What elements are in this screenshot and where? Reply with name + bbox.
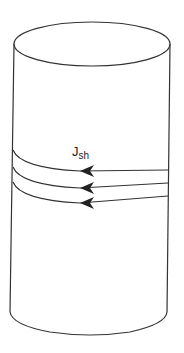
current-label: Jsh [72, 144, 89, 159]
cylinder-right-side [167, 44, 170, 312]
cylinder-left-side [10, 44, 14, 312]
arrow-icon [80, 182, 94, 194]
cylinder-top [14, 22, 170, 66]
current-symbol: J [72, 144, 79, 159]
arrow-icon [80, 197, 94, 209]
current-subscript: sh [79, 150, 90, 161]
cylinder-bottom [10, 312, 167, 335]
cylinder-diagram [0, 0, 184, 353]
